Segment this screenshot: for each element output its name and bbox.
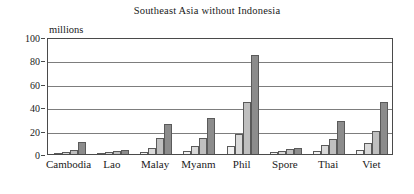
y-tick-mark bbox=[41, 38, 45, 39]
y-tick-mark bbox=[41, 155, 45, 156]
bar-group bbox=[264, 39, 307, 154]
y-axis-ticks: 020406080100 bbox=[0, 38, 45, 155]
bar bbox=[270, 152, 278, 154]
bar bbox=[70, 150, 78, 154]
y-tick-label: 60 bbox=[30, 79, 40, 90]
bar bbox=[278, 151, 286, 154]
x-tick-label: Myanm bbox=[181, 158, 215, 170]
bar bbox=[380, 102, 388, 154]
y-tick-mark bbox=[41, 132, 45, 133]
plot-area bbox=[47, 38, 393, 155]
bars-layer bbox=[48, 39, 392, 154]
bar bbox=[199, 138, 207, 154]
bar bbox=[156, 138, 164, 154]
y-tick-label: 0 bbox=[35, 150, 40, 161]
bar-group bbox=[178, 39, 221, 154]
bar bbox=[105, 152, 113, 154]
y-tick-mark bbox=[41, 108, 45, 109]
y-tick-label: 40 bbox=[30, 103, 40, 114]
y-tick-mark bbox=[41, 85, 45, 86]
bar bbox=[62, 152, 70, 154]
x-tick-label: Spore bbox=[272, 158, 298, 170]
y-tick-mark bbox=[41, 61, 45, 62]
bar bbox=[97, 153, 105, 154]
bar bbox=[313, 151, 321, 154]
x-tick-label: Malay bbox=[141, 158, 169, 170]
x-tick-label: Cambodia bbox=[46, 158, 91, 170]
bar bbox=[78, 142, 86, 154]
y-axis-unit-label: millions bbox=[49, 24, 83, 35]
bar bbox=[207, 118, 215, 154]
bar bbox=[235, 134, 243, 154]
bar bbox=[251, 55, 259, 154]
bar bbox=[356, 150, 364, 154]
bar bbox=[148, 148, 156, 154]
chart-figure: Southeast Asia without Indonesia million… bbox=[0, 0, 414, 194]
bar bbox=[329, 139, 337, 154]
bar bbox=[286, 149, 294, 154]
bar-group bbox=[91, 39, 134, 154]
bar bbox=[54, 153, 62, 154]
y-tick-label: 20 bbox=[30, 126, 40, 137]
bar-group bbox=[351, 39, 393, 154]
x-axis-labels: CambodiaLaoMalayMyanmPhilSporeThaiViet bbox=[47, 158, 393, 178]
y-tick-label: 80 bbox=[30, 56, 40, 67]
bar bbox=[227, 146, 235, 154]
bar bbox=[191, 146, 199, 154]
bar bbox=[113, 151, 121, 154]
bar bbox=[364, 143, 372, 154]
x-tick-label: Phil bbox=[233, 158, 251, 170]
bar-group bbox=[308, 39, 351, 154]
bar bbox=[183, 151, 191, 155]
x-tick-label: Thai bbox=[318, 158, 338, 170]
x-tick-label: Lao bbox=[103, 158, 120, 170]
x-tick-label: Viet bbox=[362, 158, 380, 170]
bar-group bbox=[48, 39, 91, 154]
bar bbox=[321, 145, 329, 154]
bar bbox=[164, 124, 172, 154]
bar-group bbox=[221, 39, 264, 154]
bar bbox=[337, 121, 345, 154]
y-tick-label: 100 bbox=[25, 33, 40, 44]
bar-group bbox=[135, 39, 178, 154]
bar bbox=[294, 148, 302, 154]
bar bbox=[243, 102, 251, 154]
bar bbox=[121, 150, 129, 154]
bar bbox=[140, 152, 148, 154]
chart-title: Southeast Asia without Indonesia bbox=[0, 5, 414, 16]
bar bbox=[372, 131, 380, 154]
